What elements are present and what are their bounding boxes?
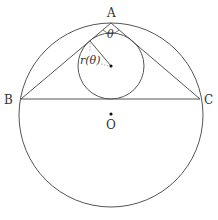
label-o: O bbox=[106, 118, 116, 132]
radius-dashed-hint bbox=[101, 64, 109, 66]
label-a: A bbox=[106, 6, 116, 20]
label-r-theta: r(θ) bbox=[80, 54, 100, 67]
geometry-diagram: A B C O θ r(θ) bbox=[0, 0, 218, 220]
label-c: C bbox=[204, 93, 213, 107]
label-b: B bbox=[4, 93, 13, 107]
center-o-point bbox=[109, 112, 112, 115]
incenter-point bbox=[109, 64, 112, 67]
label-theta: θ bbox=[107, 28, 114, 41]
